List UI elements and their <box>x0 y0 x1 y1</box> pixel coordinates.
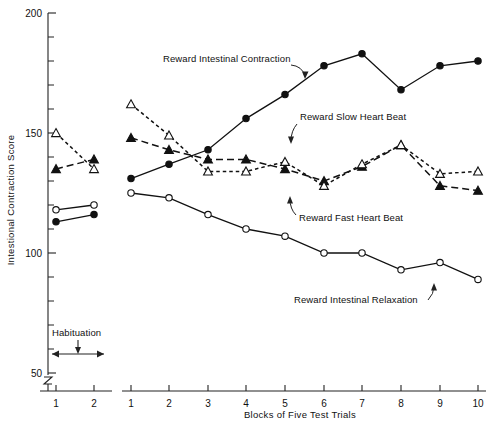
annotation-relaxation-label: Reward Intestinal Relaxation <box>294 294 418 305</box>
y-axis-title: Intestional Contraction Score <box>5 135 16 266</box>
x-tick-10: 10 <box>472 398 484 409</box>
series-reward-intestinal-relaxation <box>53 190 481 283</box>
data-point <box>359 250 365 256</box>
data-point <box>128 190 134 196</box>
data-point <box>398 267 404 273</box>
y-tick-label-200: 200 <box>25 8 42 19</box>
data-point <box>166 161 172 167</box>
series-line-habituation-reward-intestinal-relaxation <box>56 205 94 210</box>
data-point <box>205 211 211 217</box>
data-point <box>437 63 443 69</box>
annotation-fast-hb-label: Reward Fast Heart Beat <box>299 212 403 223</box>
data-point <box>166 195 172 201</box>
x-tick-9: 9 <box>437 398 443 409</box>
data-point-habituation <box>90 155 99 163</box>
data-point <box>359 51 365 57</box>
line-chart-svg: 200 150 100 50 Intestional Contraction S… <box>0 0 487 423</box>
data-point <box>243 115 249 121</box>
data-point <box>282 233 288 239</box>
series-reward-fast-heart-beat <box>52 100 483 190</box>
data-point <box>127 100 136 108</box>
habituation-label: Habituation <box>52 327 101 338</box>
data-point <box>282 91 288 97</box>
x-tick-4: 4 <box>243 398 249 409</box>
series-line-reward-intestinal-relaxation <box>131 193 478 279</box>
series-line-habituation-reward-intestinal-contraction <box>56 215 94 222</box>
x-tick-3: 3 <box>205 398 211 409</box>
data-point <box>127 133 136 141</box>
data-point <box>165 131 174 139</box>
annotation-relaxation: Reward Intestinal Relaxation <box>294 283 437 305</box>
x-tick-7: 7 <box>359 398 365 409</box>
data-point <box>128 175 134 181</box>
data-point <box>475 58 481 64</box>
annotation-fast-heart-beat: Reward Fast Heart Beat <box>287 196 403 223</box>
data-point-habituation <box>53 207 59 213</box>
habituation-marker <box>52 340 104 358</box>
data-point <box>397 141 406 149</box>
data-point-habituation <box>91 211 97 217</box>
series-line-habituation-reward-fast-heart-beat <box>56 133 94 169</box>
y-tick-label-150: 150 <box>25 128 42 139</box>
annotation-slow-heart-beat: Reward Slow Heart Beat <box>288 111 406 144</box>
y-tick-label-50: 50 <box>31 368 43 379</box>
x-tick-8: 8 <box>398 398 404 409</box>
series-layer <box>52 51 483 283</box>
x-tick-2: 2 <box>166 398 172 409</box>
data-point <box>475 276 481 282</box>
data-point <box>437 259 443 265</box>
series-line-habituation-reward-slow-heart-beat <box>56 159 94 169</box>
data-point <box>243 226 249 232</box>
series-reward-slow-heart-beat <box>52 133 483 194</box>
series-reward-intestinal-contraction <box>53 51 481 225</box>
data-point <box>281 157 290 165</box>
chart-figure: 200 150 100 50 Intestional Contraction S… <box>0 0 487 423</box>
data-point <box>205 147 211 153</box>
y-tick-label-100: 100 <box>25 248 42 259</box>
x-tick-hab-2: 2 <box>91 398 97 409</box>
x-tick-1: 1 <box>128 398 134 409</box>
data-point <box>321 250 327 256</box>
x-axis-title: Blocks of Five Test Trials <box>244 409 356 420</box>
x-tick-6: 6 <box>321 398 327 409</box>
data-point <box>358 160 367 168</box>
data-point <box>398 87 404 93</box>
x-tick-5: 5 <box>282 398 288 409</box>
data-point <box>321 63 327 69</box>
data-point-habituation <box>53 219 59 225</box>
x-axis <box>40 385 486 391</box>
annotation-contraction-label: Reward Intestinal Contraction <box>163 53 291 64</box>
data-point-habituation <box>91 202 97 208</box>
annotation-slow-hb-label: Reward Slow Heart Beat <box>300 111 406 122</box>
annotation-contraction: Reward Intestinal Contraction <box>163 53 309 79</box>
x-tick-hab-1: 1 <box>53 398 59 409</box>
